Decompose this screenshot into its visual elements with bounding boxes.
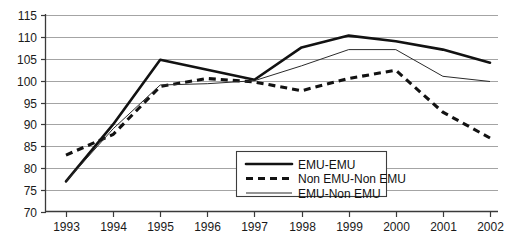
legend-label: EMU-EMU bbox=[298, 158, 355, 172]
x-axis-tick-label: 1995 bbox=[147, 220, 174, 234]
x-axis-tick-label: 2001 bbox=[430, 220, 457, 234]
y-axis-tick-labels: 707580859095100105110115 bbox=[17, 9, 37, 220]
x-axis-tick-label: 1994 bbox=[100, 220, 127, 234]
chart-canvas: 707580859095100105110115 199319941995199… bbox=[0, 0, 513, 239]
x-axis-tick-label: 2000 bbox=[383, 220, 410, 234]
y-axis-tick-label: 105 bbox=[17, 53, 37, 67]
x-axis-tick-label: 1996 bbox=[194, 220, 221, 234]
legend-label: EMU-Non EMU bbox=[298, 187, 381, 201]
y-axis-tick-label: 100 bbox=[17, 75, 37, 89]
chart-legend: EMU-EMUNon EMU-Non EMUEMU-Non EMU bbox=[237, 152, 407, 201]
x-axis-tick-label: 1993 bbox=[53, 220, 80, 234]
y-axis-tick-label: 85 bbox=[24, 140, 38, 154]
y-axis-tick-label: 70 bbox=[24, 206, 38, 220]
x-axis-tick-labels: 1993199419951996199719981999200020012002 bbox=[53, 220, 504, 234]
y-axis-tick-label: 90 bbox=[24, 118, 38, 132]
y-axis-tick-label: 95 bbox=[24, 97, 38, 111]
x-axis-tick-label: 1999 bbox=[336, 220, 363, 234]
x-axis-tick-label: 2002 bbox=[477, 220, 504, 234]
y-axis-tick-label: 80 bbox=[24, 162, 38, 176]
x-axis-tick-label: 1998 bbox=[289, 220, 316, 234]
x-axis-tick-label: 1997 bbox=[241, 220, 268, 234]
legend-label: Non EMU-Non EMU bbox=[298, 172, 406, 186]
y-axis-tick-label: 115 bbox=[18, 9, 37, 23]
series-line bbox=[66, 70, 490, 155]
y-axis-tick-label: 75 bbox=[24, 184, 38, 198]
y-axis-tick-label: 110 bbox=[18, 31, 37, 45]
line-chart: 707580859095100105110115 199319941995199… bbox=[0, 0, 513, 239]
